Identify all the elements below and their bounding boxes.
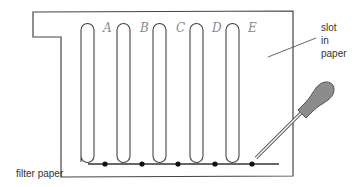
dropper-icon <box>256 82 334 158</box>
slot-4 <box>190 24 203 163</box>
slot-3 <box>153 24 166 163</box>
filter-paper-label: filter paper <box>16 168 64 179</box>
slot-label-line1: slot <box>321 22 337 33</box>
slot-1 <box>81 24 94 163</box>
slots <box>81 24 239 163</box>
lane-label-b: B <box>139 21 149 35</box>
filter-paper-outline <box>33 11 293 177</box>
slot-5 <box>226 24 239 163</box>
spot-d <box>212 161 217 166</box>
lane-label-c: C <box>176 21 185 35</box>
slot-label-line2: in <box>321 35 329 46</box>
slot-label-line3: paper <box>321 48 347 59</box>
spot-c <box>175 161 180 166</box>
spot-e <box>249 161 254 166</box>
lane-label-d: D <box>211 21 222 35</box>
lane-label-a: A <box>102 21 112 35</box>
chromatography-diagram: A B C D E slot in paper filter paper <box>0 0 363 187</box>
spot-b <box>139 161 144 166</box>
slot-leader-line <box>268 38 316 57</box>
lane-label-e: E <box>247 21 257 35</box>
spot-a <box>102 161 107 166</box>
dropper-bulb <box>298 82 334 118</box>
slot-2 <box>117 24 130 163</box>
